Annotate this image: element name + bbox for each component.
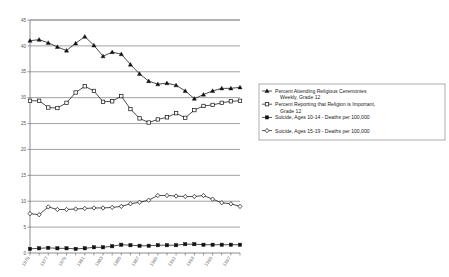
data-point-diamond-open	[192, 194, 196, 198]
y-axis-tick-label: 35	[21, 69, 27, 74]
data-point-square-filled	[120, 243, 123, 246]
legend-label-line2: Grade 12	[280, 108, 301, 114]
data-point-square-filled	[138, 244, 141, 247]
data-point-square-open	[193, 108, 196, 111]
data-point-square-open	[74, 91, 77, 94]
data-point-square-open	[120, 94, 123, 97]
x-axis-tick-label: 1987	[130, 255, 140, 267]
data-point-square-filled	[193, 243, 196, 246]
chart-container: 0510152025303540451975197719791981198319…	[0, 0, 449, 277]
data-point-square-filled	[101, 246, 104, 249]
data-point-square-filled	[65, 247, 68, 250]
data-point-square-filled	[47, 246, 50, 249]
data-point-square-open	[265, 103, 268, 106]
data-point-square-filled	[147, 244, 150, 247]
y-axis-tick-label: 0	[23, 251, 26, 256]
x-axis-tick-label: 1991	[167, 255, 177, 267]
x-axis-tick-label: 1977	[39, 255, 49, 267]
data-point-square-open	[47, 106, 50, 109]
legend-label: Percent Reporting that Religion is Impor…	[275, 101, 375, 107]
data-point-diamond-open	[183, 194, 187, 198]
data-point-triangle	[165, 81, 169, 85]
data-point-square-open	[229, 100, 232, 103]
data-point-square-filled	[129, 244, 132, 247]
y-axis-tick-label: 20	[21, 147, 27, 152]
data-point-square-filled	[184, 243, 187, 246]
series-1	[28, 34, 242, 100]
x-axis-tick-label: 1981	[76, 255, 86, 267]
data-point-square-filled	[92, 246, 95, 249]
data-point-triangle	[110, 50, 114, 54]
legend-label-line2: Weekly, Grade 12	[280, 94, 320, 100]
data-point-diamond-open	[83, 206, 87, 210]
line-chart: 0510152025303540451975197719791981198319…	[0, 0, 449, 277]
data-point-square-open	[138, 117, 141, 120]
data-point-diamond-open	[138, 200, 142, 204]
data-point-square-open	[37, 99, 40, 102]
data-point-diamond-open	[110, 205, 114, 209]
data-point-square-filled	[56, 247, 59, 250]
legend-label: Suicide, Ages 10-14 - Deaths per 100,000	[275, 114, 370, 120]
data-point-square-filled	[74, 247, 77, 250]
data-point-diamond-open	[101, 206, 105, 210]
data-point-square-open	[174, 112, 177, 115]
data-point-diamond-open	[156, 193, 160, 197]
data-point-square-filled	[28, 247, 31, 250]
y-axis-tick-label: 45	[21, 18, 27, 23]
x-axis-tick-label: 1997	[222, 255, 232, 267]
data-point-diamond-open	[147, 198, 151, 202]
data-point-triangle	[83, 34, 87, 38]
data-point-square-open	[202, 104, 205, 107]
data-point-square-filled	[220, 243, 223, 246]
data-point-square-open	[129, 107, 132, 110]
data-point-diamond-open	[65, 207, 69, 211]
data-point-diamond-open	[174, 194, 178, 198]
y-axis-tick-label: 5	[23, 225, 26, 230]
series-line	[30, 244, 240, 249]
data-point-square-open	[156, 118, 159, 121]
data-point-diamond-open	[74, 207, 78, 211]
data-point-square-filled	[38, 247, 41, 250]
legend-item-4[interactable]: Suicide, Ages 15-19 - Deaths per 100,000	[262, 128, 370, 134]
data-point-square-open	[110, 100, 113, 103]
data-point-diamond-open	[92, 206, 96, 210]
data-point-square-open	[238, 99, 241, 102]
data-point-square-open	[147, 121, 150, 124]
data-point-square-filled	[229, 243, 232, 246]
data-point-diamond-open	[119, 204, 123, 208]
x-axis-tick-label: 1995	[203, 255, 213, 267]
data-point-square-filled	[174, 244, 177, 247]
data-point-square-open	[184, 116, 187, 119]
data-point-square-filled	[265, 116, 268, 119]
x-axis-tick-label: 1993	[185, 255, 195, 267]
legend-item-3[interactable]: Suicide, Ages 10-14 - Deaths per 100,000	[262, 114, 370, 120]
x-axis-tick-label: 1983	[94, 255, 104, 267]
data-point-square-filled	[238, 243, 241, 246]
data-point-square-open	[83, 85, 86, 88]
data-point-square-filled	[165, 244, 168, 247]
data-point-diamond-open	[201, 193, 205, 197]
data-point-triangle	[238, 85, 242, 89]
data-point-diamond-open	[229, 202, 233, 206]
x-axis-tick-label: 1979	[57, 255, 67, 267]
x-axis-tick-label: 1975	[21, 255, 31, 267]
data-point-square-open	[165, 116, 168, 119]
data-point-triangle	[37, 38, 41, 42]
data-point-diamond-open	[238, 204, 242, 208]
series-line	[30, 86, 240, 122]
x-axis-tick-label: 1985	[112, 255, 122, 267]
data-point-triangle	[55, 45, 59, 49]
y-axis-tick-label: 15	[21, 173, 27, 178]
data-point-diamond-open	[28, 211, 32, 215]
data-point-square-filled	[111, 245, 114, 248]
y-axis-tick-label: 10	[21, 199, 27, 204]
legend: Percent Attending Religious CeremoniesWe…	[259, 84, 445, 140]
data-point-square-filled	[202, 243, 205, 246]
y-axis-tick-label: 30	[21, 95, 27, 100]
data-point-diamond-open	[165, 193, 169, 197]
legend-label: Suicide, Ages 15-19 - Deaths per 100,000	[275, 128, 370, 134]
data-point-square-open	[56, 106, 59, 109]
series-2	[28, 85, 241, 125]
y-axis-tick-label: 25	[21, 121, 27, 126]
data-point-diamond-open	[55, 207, 59, 211]
